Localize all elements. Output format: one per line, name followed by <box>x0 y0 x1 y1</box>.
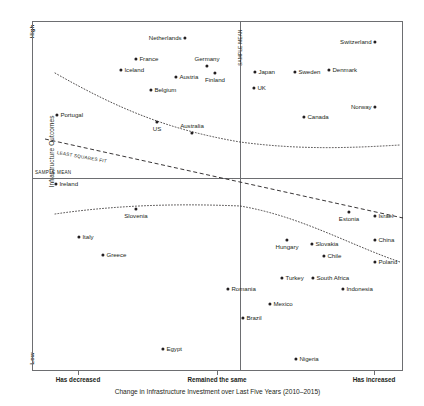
data-point-label: South Africa <box>316 275 349 281</box>
data-point-label: Belgium <box>154 87 176 93</box>
x-axis-tick-label: Remained the same <box>187 376 246 383</box>
data-point-label: Canada <box>307 114 328 120</box>
x-axis-title: Change in Infrastructure Investment over… <box>32 388 403 395</box>
data-point-label: Iceland <box>124 67 144 73</box>
data-point-label: Turkey <box>285 275 303 281</box>
data-point-label: Portugal <box>60 112 83 118</box>
data-point-label: Brazil <box>246 315 261 321</box>
x-axis-tick-label: Has decreased <box>56 376 100 383</box>
data-point-label: China <box>378 237 394 243</box>
sample-mean-vertical-label: SAMPLE MEAN <box>238 20 243 76</box>
data-point-label: UK <box>257 85 265 91</box>
data-point-label: Estonia <box>339 216 359 222</box>
data-point-label: Austria <box>179 74 198 80</box>
data-point-label: Slovenia <box>124 213 147 219</box>
data-point-label: Egypt <box>166 346 182 352</box>
data-point-label: Ireland <box>59 181 78 187</box>
data-point-label: Israel <box>378 213 393 219</box>
x-axis-tick-mark <box>78 371 79 375</box>
data-point-label: France <box>139 56 158 62</box>
data-point-label: Nigeria <box>299 356 318 362</box>
data-point-label: Chile <box>327 253 341 259</box>
data-point-label: Germany <box>194 56 219 62</box>
data-point-label: Slovakia <box>315 241 338 247</box>
sample-mean-horizontal-label: SAMPLE MEAN <box>35 170 72 175</box>
data-point-label: Poland <box>378 259 397 265</box>
data-point-label: Sweden <box>298 69 320 75</box>
data-point-label: Romania <box>231 286 255 292</box>
data-point-label: Japan <box>258 69 275 75</box>
data-point-label: Finland <box>205 77 225 83</box>
x-axis-tick-label: Has increased <box>353 376 396 383</box>
sample-mean-horizontal-line <box>32 178 403 179</box>
data-point-label: Denmark <box>332 67 357 73</box>
data-point-label: Australia <box>180 123 204 129</box>
data-point-label: Indonesia <box>346 286 372 292</box>
data-point-label: US <box>153 126 161 132</box>
data-point-label: Norway <box>351 104 372 110</box>
plot-area <box>32 21 403 371</box>
data-point-label: Greece <box>106 252 126 258</box>
scatter-chart-figure: Infrastructure Outcomes High Low SAMPLE … <box>0 0 424 406</box>
data-point-label: Italy <box>82 234 93 240</box>
data-point-label: Netherlands <box>149 35 182 41</box>
data-point-label: Mexico <box>273 301 292 307</box>
x-axis-tick-mark <box>374 371 375 375</box>
data-point-label: Switzerland <box>340 39 372 45</box>
x-axis-tick-mark <box>217 371 218 375</box>
data-point-label: Hungary <box>275 244 298 250</box>
